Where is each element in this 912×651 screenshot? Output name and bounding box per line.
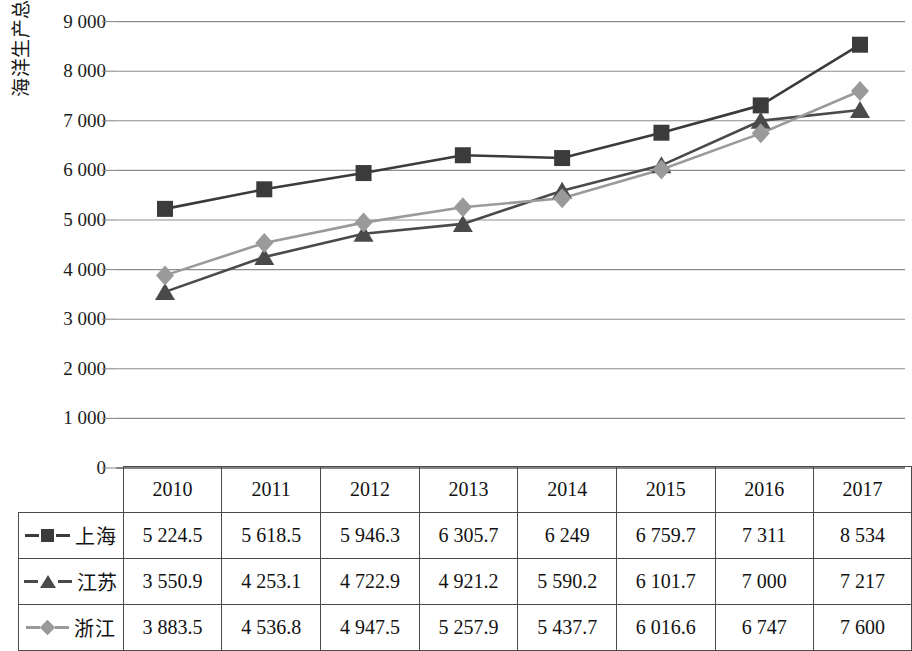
marker-square <box>653 125 669 141</box>
table-column-header-2016: 2016 <box>715 467 813 513</box>
legend-cell-浙江: 浙江 <box>19 605 124 651</box>
marker-diamond <box>355 213 373 233</box>
table-column-header-2011: 2011 <box>222 467 321 513</box>
table-row: 浙江3 883.54 536.84 947.55 257.95 437.76 0… <box>19 605 912 651</box>
marker-triangle <box>155 283 175 300</box>
table-column-header-2012: 2012 <box>321 467 420 513</box>
table-cell: 6 759.7 <box>616 513 715 559</box>
table-cell: 6 016.6 <box>616 605 715 651</box>
table-cell: 6 305.7 <box>419 513 518 559</box>
diamond-marker-icon <box>40 620 56 636</box>
legend-label: 上海 <box>72 521 116 550</box>
line-chart: 海洋生产总值/亿元 9 0008 0007 0006 0005 0004 000… <box>0 0 912 470</box>
table-cell: 3 883.5 <box>123 605 222 651</box>
legend-label: 浙江 <box>71 613 115 642</box>
table-column-header-2015: 2015 <box>616 467 715 513</box>
plot-canvas <box>0 0 912 470</box>
marker-diamond <box>851 81 869 101</box>
marker-square <box>753 97 769 113</box>
table-cell: 6 249 <box>518 513 617 559</box>
marker-square <box>157 201 173 217</box>
marker-square <box>256 181 272 197</box>
legend-line-right <box>58 580 72 583</box>
legend-cell-江苏: 江苏 <box>19 559 124 605</box>
table-cell: 4 536.8 <box>222 605 321 651</box>
data-table-container: 20102011201220132014201520162017 上海5 224… <box>0 466 912 650</box>
table-cell: 5 257.9 <box>419 605 518 651</box>
legend-line-left <box>25 534 39 537</box>
legend-line-right <box>56 534 70 537</box>
table-row: 上海5 224.55 618.55 946.36 305.76 2496 759… <box>19 513 912 559</box>
marker-diamond <box>156 265 174 285</box>
table-cell: 7 311 <box>715 513 813 559</box>
table-cell: 7 000 <box>715 559 813 605</box>
table-row: 江苏3 550.94 253.14 722.94 921.25 590.26 1… <box>19 559 912 605</box>
table-cell: 5 618.5 <box>222 513 321 559</box>
square-marker-icon <box>41 529 54 542</box>
data-table: 20102011201220132014201520162017 上海5 224… <box>18 466 912 651</box>
table-cell: 4 947.5 <box>321 605 420 651</box>
legend-line-left <box>26 626 40 629</box>
table-cell: 7 600 <box>813 605 911 651</box>
marker-square <box>852 37 868 53</box>
legend-label: 江苏 <box>74 567 118 596</box>
table-column-header-2014: 2014 <box>518 467 617 513</box>
triangle-marker-icon <box>40 575 56 588</box>
marker-diamond <box>553 188 571 208</box>
table-cell: 5 224.5 <box>123 513 222 559</box>
table-cell: 4 253.1 <box>222 559 321 605</box>
marker-square <box>554 150 570 166</box>
table-cell: 4 921.2 <box>419 559 518 605</box>
marker-square <box>455 147 471 163</box>
table-cell: 8 534 <box>813 513 911 559</box>
table-column-header-2017: 2017 <box>813 467 911 513</box>
table-cell: 3 550.9 <box>123 559 222 605</box>
table-cell: 6 747 <box>715 605 813 651</box>
table-cell: 5 946.3 <box>321 513 420 559</box>
legend-line-left <box>24 580 38 583</box>
legend-cell-上海: 上海 <box>19 513 124 559</box>
table-cell: 7 217 <box>813 559 911 605</box>
legend-line-right <box>55 626 69 629</box>
table-cell: 5 590.2 <box>518 559 617 605</box>
table-header-row: 20102011201220132014201520162017 <box>19 467 912 513</box>
table-cell: 4 722.9 <box>321 559 420 605</box>
marker-diamond <box>454 197 472 217</box>
table-corner-cell <box>19 467 124 513</box>
table-column-header-2013: 2013 <box>419 467 518 513</box>
table-cell: 6 101.7 <box>616 559 715 605</box>
marker-diamond <box>255 233 273 253</box>
marker-square <box>356 165 372 181</box>
table-column-header-2010: 2010 <box>123 467 222 513</box>
table-cell: 5 437.7 <box>518 605 617 651</box>
